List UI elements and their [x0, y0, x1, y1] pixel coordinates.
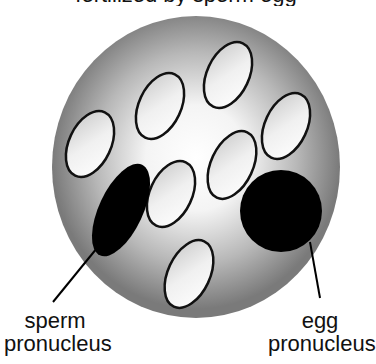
sperm-leader-line — [53, 248, 97, 302]
sperm-label-line1: sperm — [4, 310, 106, 332]
egg-label-line1: egg — [268, 310, 372, 332]
egg-label-line2: pronucleus — [268, 333, 372, 355]
sperm-label-line2: pronucleus — [4, 333, 106, 355]
egg-pronucleus — [240, 170, 322, 252]
